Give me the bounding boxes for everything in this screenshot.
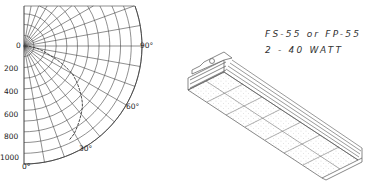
fixture-wattage-caption: 2 - 40 WATT <box>265 45 343 55</box>
radial-tick-200: 200 <box>4 64 18 73</box>
angle-label-90: 90° <box>140 41 153 50</box>
polar-candlepower-chart <box>0 0 180 181</box>
polar-grid <box>24 6 142 164</box>
angle-label-0: 0° <box>22 162 31 171</box>
radial-tick-400: 400 <box>4 87 18 96</box>
radial-tick-0: 0 <box>16 41 21 50</box>
angle-label-60: 60° <box>126 102 139 111</box>
radial-tick-1000: 1000 <box>0 153 19 162</box>
fixture-model-caption: FS-55 or FP-55 <box>265 29 361 39</box>
radial-tick-800: 800 <box>4 132 18 141</box>
angle-label-30: 30° <box>79 144 92 153</box>
light-fixture-illustration <box>180 0 366 181</box>
radial-tick-600: 600 <box>4 110 18 119</box>
